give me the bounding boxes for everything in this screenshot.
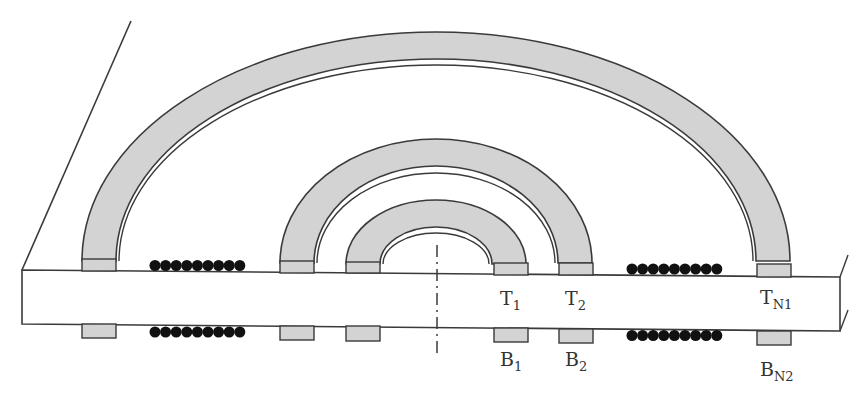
turn-dot [648, 330, 659, 341]
label-bn2: BN2 [760, 358, 794, 384]
turn-dot [203, 327, 214, 338]
turn-dot [627, 330, 638, 341]
label-b1: B1 [500, 348, 522, 374]
perspective-line-right-top [840, 255, 848, 277]
bottom-pad [280, 326, 314, 340]
top-pad [346, 262, 380, 273]
turn-dot [192, 327, 203, 338]
turn-dot [203, 260, 214, 271]
turn-dot [680, 330, 691, 341]
turn-dot [213, 327, 224, 338]
turn-dot [658, 330, 669, 341]
turn-dot [701, 264, 712, 275]
top-pad [82, 259, 116, 271]
turn-dot [181, 260, 192, 271]
turn-dot [213, 260, 224, 271]
turn-dot [224, 260, 235, 271]
turn-dot [160, 327, 171, 338]
turn-dot [171, 260, 182, 271]
turn-dot [637, 264, 648, 275]
winding-arches [82, 32, 790, 264]
turn-dot [234, 260, 245, 271]
perspective-line-right-bottom [840, 310, 848, 331]
turn-dot [234, 327, 245, 338]
bottom-pad [82, 324, 116, 338]
turn-dot [669, 264, 680, 275]
top-pad [494, 263, 528, 275]
turn-dot [701, 330, 712, 341]
top-pad [280, 261, 314, 273]
bottom-pad [494, 328, 528, 342]
turn-dot [171, 327, 182, 338]
turn-dot [637, 330, 648, 341]
arch-inner [346, 200, 526, 264]
top-pad [757, 264, 791, 277]
turn-dot [627, 264, 638, 275]
bottom-pad [559, 329, 593, 343]
planar-coil-diagram: T1 T2 TN1 B1 B2 BN2 [0, 0, 866, 398]
substrate-slab [22, 270, 840, 331]
turn-dot [669, 330, 680, 341]
label-b2: B2 [565, 348, 587, 374]
turn-dot [658, 264, 669, 275]
turn-dot [224, 327, 235, 338]
turn-dot [181, 327, 192, 338]
turn-dot [711, 330, 722, 341]
turn-dot [680, 264, 691, 275]
bottom-pad [346, 326, 380, 341]
turn-dot [150, 260, 161, 271]
bottom-pad [757, 331, 791, 345]
turn-dot [192, 260, 203, 271]
turn-dot [690, 330, 701, 341]
turn-dot [711, 264, 722, 275]
turn-dot [160, 260, 171, 271]
turn-dot [690, 264, 701, 275]
turn-dot [150, 327, 161, 338]
turn-dot [648, 264, 659, 275]
top-pad [559, 263, 593, 275]
arch-inner-line-inner [383, 233, 489, 264]
